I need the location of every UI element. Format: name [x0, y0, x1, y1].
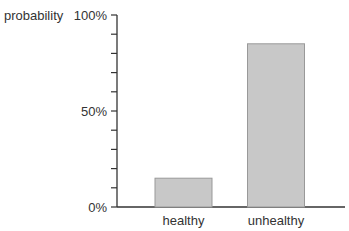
y-tick-label: 100% — [74, 8, 108, 23]
x-tick-label: healthy — [163, 213, 205, 228]
bar-healthy — [155, 178, 212, 207]
bar-chart: 0%50%100%healthyunhealthy — [0, 0, 349, 231]
y-tick-label: 0% — [88, 200, 107, 215]
y-tick-label: 50% — [81, 104, 107, 119]
bar-unhealthy — [248, 44, 305, 207]
x-tick-label: unhealthy — [248, 213, 305, 228]
